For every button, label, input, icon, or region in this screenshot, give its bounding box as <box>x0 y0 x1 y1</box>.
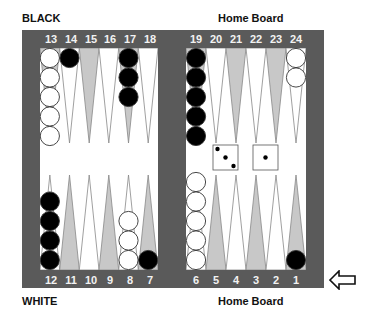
point-number: 10 <box>81 274 101 286</box>
home-board <box>186 48 306 270</box>
arrow-left-icon <box>329 270 357 290</box>
checker-black <box>40 192 59 211</box>
checker-black <box>286 250 305 269</box>
checker-black <box>119 87 138 106</box>
point-number: 11 <box>61 274 81 286</box>
checker-black <box>119 68 138 87</box>
checker-black <box>186 68 205 87</box>
checker-white <box>119 231 138 250</box>
point-number: 13 <box>41 33 61 45</box>
checker-white <box>40 87 59 106</box>
point-number: 19 <box>186 33 206 45</box>
checker-white <box>286 68 305 87</box>
checker-white <box>40 48 59 67</box>
home-board-label-top: Home Board <box>218 12 283 24</box>
point-number: 12 <box>41 274 61 286</box>
point-9 <box>99 175 119 270</box>
point-number: 1 <box>286 274 306 286</box>
point-number: 2 <box>266 274 286 286</box>
checker-black <box>186 87 205 106</box>
point-number: 9 <box>100 274 120 286</box>
checker-black <box>186 107 205 126</box>
checker-white <box>40 107 59 126</box>
point-23 <box>266 48 286 143</box>
point-21 <box>226 48 246 143</box>
point-5 <box>206 175 226 270</box>
checker-white <box>186 192 205 211</box>
point-number: 16 <box>100 33 120 45</box>
point-10 <box>79 175 99 270</box>
point-3 <box>246 175 266 270</box>
checker-white <box>186 250 205 269</box>
point-22 <box>246 48 266 143</box>
checker-white <box>40 68 59 87</box>
checker-black <box>40 211 59 230</box>
checker-white <box>119 211 138 230</box>
checker-black <box>40 250 59 269</box>
checker-white <box>286 48 305 67</box>
dice <box>213 145 278 170</box>
checker-white <box>186 211 205 230</box>
point-number: 24 <box>286 33 306 45</box>
checker-black <box>186 126 205 145</box>
checker-white <box>119 250 138 269</box>
point-11 <box>60 175 80 270</box>
point-number: 21 <box>226 33 246 45</box>
point-number: 3 <box>246 274 266 286</box>
point-number: 17 <box>120 33 140 45</box>
player-label-black: BLACK <box>22 12 61 24</box>
checker-black <box>139 250 158 269</box>
point-number: 20 <box>206 33 226 45</box>
point-number: 22 <box>246 33 266 45</box>
checker-black <box>186 48 205 67</box>
point-number: 7 <box>140 274 160 286</box>
point-15 <box>79 48 99 143</box>
checker-black <box>40 231 59 250</box>
point-20 <box>206 48 226 143</box>
home-board-label-bottom: Home Board <box>218 295 283 307</box>
point-number: 4 <box>226 274 246 286</box>
point-number: 6 <box>186 274 206 286</box>
point-number: 8 <box>120 274 140 286</box>
point-18 <box>138 48 158 143</box>
point-number: 23 <box>266 33 286 45</box>
point-number: 5 <box>206 274 226 286</box>
outer-board <box>40 48 158 270</box>
player-label-white: WHITE <box>22 295 57 307</box>
checker-white <box>186 172 205 191</box>
point-number: 15 <box>81 33 101 45</box>
checker-black <box>119 48 138 67</box>
point-16 <box>99 48 119 143</box>
checker-black <box>60 48 79 67</box>
point-number: 18 <box>140 33 160 45</box>
backgammon-board: 13 14 15 16 17 18 19 20 21 22 23 24 12 1… <box>22 30 324 288</box>
checker-white <box>40 126 59 145</box>
point-number: 14 <box>61 33 81 45</box>
point-2 <box>266 175 286 270</box>
point-4 <box>226 175 246 270</box>
checker-white <box>186 231 205 250</box>
